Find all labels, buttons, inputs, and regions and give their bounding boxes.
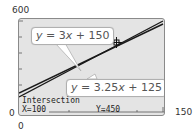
y-axis-ticks [19, 21, 23, 85]
equation-callout-1: y = 3x + 150 [31, 27, 114, 45]
callout1-pointer [55, 43, 81, 71]
eq2-rhs: = 3.25 [78, 81, 119, 94]
intersection-y-value: Y=450 [96, 106, 120, 114]
equation-callout-2: y = 3.25x + 125 [66, 79, 165, 97]
x-axis-max-label: 150 [175, 108, 192, 117]
eq2-tail: + 125 [125, 81, 162, 94]
intersection-title: Intersection [22, 97, 80, 105]
y-axis-max-label: 600 [12, 6, 29, 15]
intersection-x-value: X=100 [22, 106, 46, 114]
eq1-rhs: = 3 [43, 29, 66, 42]
eq1-tail: + 150 [72, 29, 109, 42]
y-axis-min-label: 0 [9, 109, 15, 118]
x-axis-min-label: 0 [18, 122, 24, 131]
calculator-screen: y = 3x + 150 y = 3.25x + 125 Intersectio… [18, 18, 165, 116]
